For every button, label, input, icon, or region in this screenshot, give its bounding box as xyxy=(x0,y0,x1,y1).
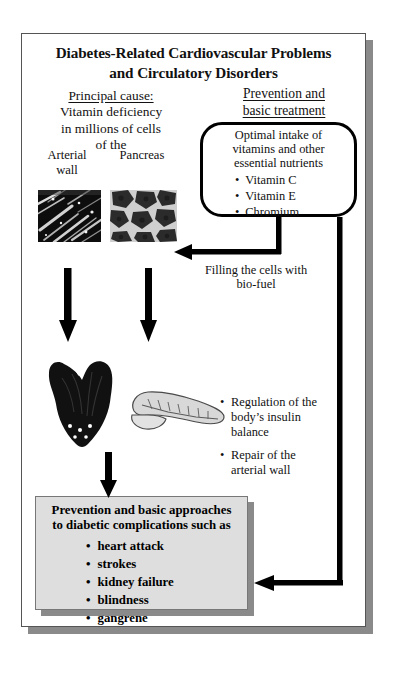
list-item: Repair of the arterial wall xyxy=(220,448,332,478)
treatment-box-heading-line-1: Optimal intake of xyxy=(205,128,352,142)
filling-cells-caption: Filling the cells with bio-fuel xyxy=(185,263,327,292)
filling-cells-caption-line-2: bio-fuel xyxy=(185,277,327,291)
list-item: kidney failure xyxy=(86,574,174,592)
list-item: Chromium xyxy=(235,204,299,220)
arterial-wall-micrograph xyxy=(38,190,101,242)
page-title-line-1: Diabetes-Related Cardiovascular Problems xyxy=(26,43,361,63)
pancreas-tissue-micrograph xyxy=(110,190,177,242)
list-item: heart attack xyxy=(86,538,174,556)
list-item: Vitamin E xyxy=(235,188,299,204)
complications-list: heart attack strokes kidney failure blin… xyxy=(86,538,174,628)
arterial-wall-caption: Arterial wall xyxy=(36,148,98,178)
prevention-heading-line-2: basic treatment xyxy=(243,103,326,118)
treatment-box-heading: Optimal intake of vitamins and other ess… xyxy=(205,128,352,170)
principal-cause-line-2: in millions of cells xyxy=(36,121,186,137)
complications-box-title-line-1: Prevention and basic approaches xyxy=(39,503,244,518)
principal-cause-line-1: Vitamin deficiency xyxy=(36,104,186,120)
pancreas-caption: Pancreas xyxy=(104,148,180,163)
list-item: strokes xyxy=(86,556,174,574)
outcomes-list: Regulation of the body’s insulin balance… xyxy=(220,395,332,485)
pancreas-organ-illustration xyxy=(128,385,226,433)
page-title: Diabetes-Related Cardiovascular Problems… xyxy=(26,43,361,83)
heart-illustration xyxy=(44,358,118,450)
list-item: gangrene xyxy=(86,610,174,628)
prevention-heading-line-1: Prevention and xyxy=(243,86,325,101)
principal-cause-heading: Principal cause: xyxy=(36,88,186,104)
filling-cells-caption-line-1: Filling the cells with xyxy=(185,263,327,277)
diagram-page: Diabetes-Related Cardiovascular Problems… xyxy=(0,0,393,684)
list-item: Vitamin C xyxy=(235,172,299,188)
list-item: blindness xyxy=(86,592,174,610)
page-title-line-2: and Circulatory Disorders xyxy=(26,63,361,83)
complications-box-title: Prevention and basic approaches to diabe… xyxy=(39,503,244,534)
principal-cause-block: Principal cause: Vitamin deficiency in m… xyxy=(36,88,186,154)
complications-box-title-line-2: to diabetic complications such as xyxy=(39,518,244,533)
arterial-wall-caption-line-2: wall xyxy=(36,163,98,178)
treatment-box-heading-line-3: essential nutrients xyxy=(205,156,352,170)
prevention-heading: Prevention and basic treatment xyxy=(209,85,359,119)
treatment-box-heading-line-2: vitamins and other xyxy=(205,142,352,156)
list-item: Regulation of the body’s insulin balance xyxy=(220,395,332,440)
arterial-wall-caption-line-1: Arterial xyxy=(36,148,98,163)
nutrient-list: Vitamin C Vitamin E Chromium xyxy=(235,172,299,220)
